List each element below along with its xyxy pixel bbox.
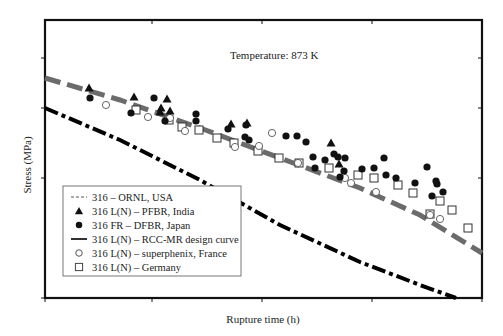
legend-item: 316 L(N) – RCC-MR design curve bbox=[71, 234, 239, 246]
series-markers bbox=[85, 84, 344, 168]
filled-circle-marker bbox=[282, 132, 289, 139]
filled-circle-marker bbox=[127, 109, 134, 116]
filled-circle-marker bbox=[423, 163, 430, 170]
triangle-marker bbox=[327, 139, 336, 147]
legend-label: 316 L(N) – Germany bbox=[92, 262, 182, 274]
filled-circle-marker bbox=[76, 222, 82, 228]
y-axis-label: Stress (MPa) bbox=[21, 136, 34, 193]
filled-circle-marker bbox=[428, 192, 435, 199]
filled-circle-marker bbox=[358, 165, 365, 172]
open-square-marker bbox=[213, 134, 221, 142]
filled-circle-marker bbox=[380, 154, 387, 161]
open-circle-marker bbox=[268, 129, 275, 136]
legend: 316 – ORNL, USA316 L(N) – PFBR, India316… bbox=[63, 186, 241, 276]
open-square-marker bbox=[448, 206, 456, 214]
open-circle-marker bbox=[372, 188, 379, 195]
filled-circle-marker bbox=[293, 132, 300, 139]
open-square-marker bbox=[325, 164, 333, 172]
triangle-marker bbox=[227, 120, 236, 128]
open-circle-marker bbox=[255, 142, 262, 149]
filled-circle-marker bbox=[245, 136, 252, 143]
filled-circle-marker bbox=[161, 117, 168, 124]
legend-label: 316 L(N) – superphenix, France bbox=[92, 248, 227, 260]
open-square-marker bbox=[275, 154, 283, 162]
legend-item: 316 FR – DFBR, Japan bbox=[76, 220, 191, 231]
filled-circle-marker bbox=[150, 94, 157, 101]
open-square-marker bbox=[409, 189, 417, 197]
open-circle-marker bbox=[426, 211, 433, 218]
legend-label: 316 L(N) – RCC-MR design curve bbox=[92, 234, 239, 246]
creep-rupture-chart: Temperature: 873 K Rupture time (h) Stre… bbox=[0, 0, 503, 336]
filled-circle-marker bbox=[392, 174, 399, 181]
open-circle-marker bbox=[102, 101, 109, 108]
legend-item: 316 L(N) – PFBR, India bbox=[75, 206, 195, 218]
filled-circle-marker bbox=[340, 167, 347, 174]
open-circle-marker bbox=[144, 113, 151, 120]
filled-circle-marker bbox=[86, 94, 93, 101]
filled-circle-marker bbox=[334, 153, 341, 160]
filled-circle-marker bbox=[192, 110, 199, 117]
filled-circle-marker bbox=[411, 179, 418, 186]
open-square-marker bbox=[75, 263, 82, 270]
filled-circle-marker bbox=[309, 153, 316, 160]
triangle-marker bbox=[130, 93, 139, 101]
open-square-marker bbox=[195, 126, 203, 134]
legend-label: 316 L(N) – PFBR, India bbox=[92, 206, 195, 218]
filled-circle-marker bbox=[311, 164, 318, 171]
triangle-marker bbox=[85, 84, 94, 92]
triangle-marker bbox=[163, 95, 172, 103]
filled-circle-marker bbox=[432, 177, 439, 184]
temperature-annotation: Temperature: 873 K bbox=[230, 49, 318, 61]
open-circle-marker bbox=[436, 215, 443, 222]
filled-circle-marker bbox=[302, 138, 309, 145]
legend-label: 316 FR – DFBR, Japan bbox=[92, 220, 191, 231]
open-square-marker bbox=[394, 181, 402, 189]
filled-circle-marker bbox=[382, 171, 389, 178]
triangle-marker bbox=[166, 107, 175, 115]
open-circle-marker bbox=[76, 250, 82, 256]
open-circle-marker bbox=[231, 143, 238, 150]
open-square-marker bbox=[370, 174, 378, 182]
open-circle-marker bbox=[181, 127, 188, 134]
open-circle-marker bbox=[347, 179, 354, 186]
filled-circle-marker bbox=[192, 117, 199, 124]
open-circle-marker bbox=[294, 159, 301, 166]
filled-circle-marker bbox=[439, 188, 446, 195]
open-square-marker bbox=[436, 197, 444, 205]
filled-circle-marker bbox=[370, 164, 377, 171]
filled-circle-marker bbox=[341, 154, 348, 161]
x-axis-label: Rupture time (h) bbox=[226, 313, 300, 326]
filled-circle-marker bbox=[336, 173, 343, 180]
open-square-marker bbox=[464, 224, 472, 232]
triangle-marker bbox=[335, 160, 344, 168]
filled-circle-marker bbox=[321, 156, 328, 163]
legend-label: 316 – ORNL, USA bbox=[92, 192, 174, 203]
legend-item: 316 L(N) – superphenix, France bbox=[76, 248, 228, 260]
legend-item: 316 L(N) – Germany bbox=[75, 262, 181, 274]
